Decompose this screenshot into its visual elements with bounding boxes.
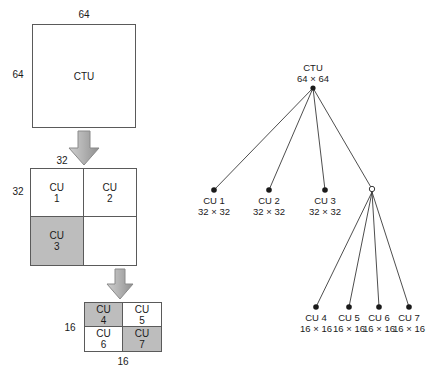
tree-node-cu3-size: 32 × 32 — [295, 207, 355, 218]
tree-node-cu1-label: CU 1 — [203, 195, 225, 206]
tree-node-cu3: CU 3 32 × 32 — [295, 196, 355, 217]
tree-node-cu1: CU 1 32 × 32 — [184, 196, 244, 217]
tree-node-cu2-label: CU 2 — [258, 195, 280, 206]
tree-node-cu1-size: 32 × 32 — [184, 207, 244, 218]
tree-node-cu7-size: 16 × 16 — [383, 324, 435, 335]
tree-node-cu7-label: CU 7 — [398, 312, 420, 323]
tree-root-node: CTU 64 × 64 — [283, 63, 343, 84]
tree-root-label: CTU — [303, 62, 323, 73]
tree-node-cu2-size: 32 × 32 — [239, 207, 299, 218]
tree-node-cu7: CU 7 16 × 16 — [383, 313, 435, 334]
tree-node-cu3-label: CU 3 — [314, 195, 336, 206]
tree-root-size: 64 × 64 — [283, 74, 343, 85]
tree-node-cu2: CU 2 32 × 32 — [239, 196, 299, 217]
figure-canvas: 64 64 CTU 32 32 CU 1 CU — [0, 0, 448, 384]
